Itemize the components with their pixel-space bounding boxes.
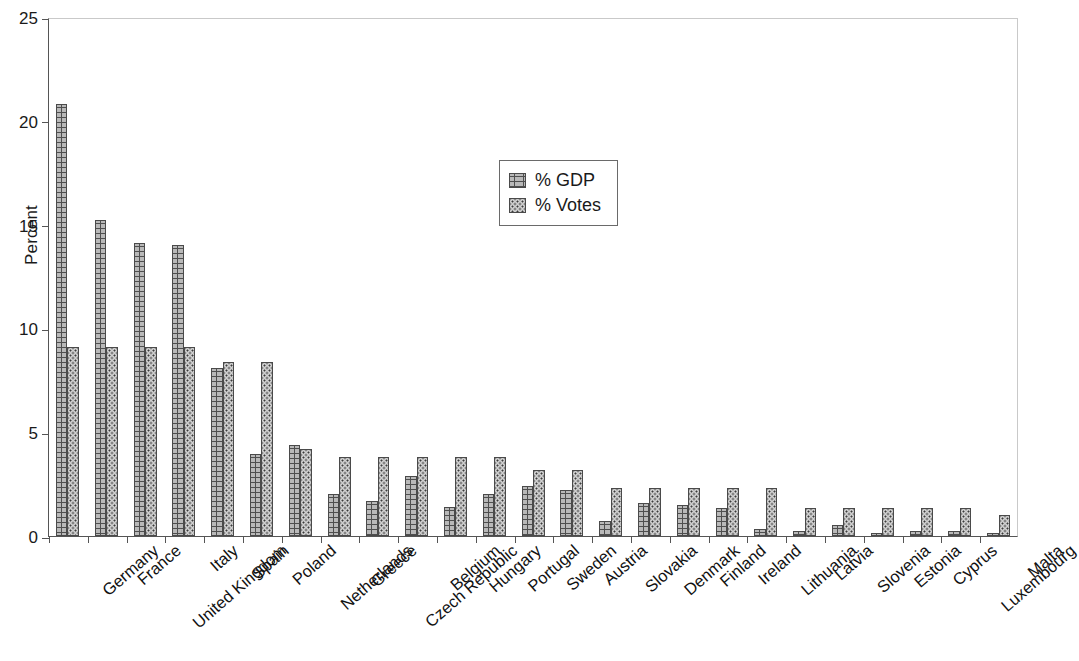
- y-tick-0: 0: [29, 528, 49, 548]
- bar-gdp-estonia: [871, 533, 883, 536]
- bar-votes-finland: [688, 488, 700, 536]
- y-tick-mark: [42, 122, 49, 123]
- bar-votes-latvia: [805, 508, 817, 536]
- y-tick-10: 10: [19, 320, 49, 340]
- y-tick-25: 25: [19, 9, 49, 29]
- bar-votes-france: [106, 347, 118, 536]
- bar-votes-greece: [339, 457, 351, 536]
- y-tick-label: 0: [29, 528, 38, 548]
- bar-votes-lithuania: [766, 488, 778, 536]
- bar-group: [871, 19, 894, 536]
- bar-gdp-slovakia: [599, 521, 611, 536]
- bar-group: [910, 19, 933, 536]
- bar-votes-italy: [184, 347, 196, 536]
- y-tick-20: 20: [19, 113, 49, 133]
- bar-group: [560, 19, 583, 536]
- bar-votes-denmark: [649, 488, 661, 536]
- y-tick-mark: [42, 226, 49, 227]
- bar-gdp-greece: [328, 494, 340, 536]
- x-label-text: Italy: [206, 541, 241, 575]
- y-tick-mark: [42, 19, 49, 20]
- y-tick-label: 10: [19, 320, 38, 340]
- bar-gdp-italy: [172, 245, 184, 536]
- chart-legend: % GDP % Votes: [499, 160, 618, 226]
- bar-votes-slovakia: [611, 488, 623, 536]
- bar-group: [289, 19, 312, 536]
- bar-votes-spain: [223, 362, 235, 536]
- bar-gdp-germany: [56, 104, 68, 536]
- legend-item-votes: % Votes: [509, 193, 601, 218]
- x-label-poland: Poland: [289, 541, 340, 589]
- bar-votes-estonia: [882, 508, 894, 536]
- bar-gdp-malta: [987, 533, 999, 536]
- bar-gdp-denmark: [638, 503, 650, 536]
- bar-group: [522, 19, 545, 536]
- bar-group: [250, 19, 273, 536]
- bar-votes-austria: [572, 470, 584, 536]
- bar-votes-germany: [67, 347, 79, 536]
- bar-group: [948, 19, 971, 536]
- bar-group: [328, 19, 351, 536]
- bar-gdp-poland: [250, 454, 262, 536]
- bar-votes-netherlands: [300, 449, 312, 536]
- bar-votes-portugal: [494, 457, 506, 536]
- bar-votes-sweden: [533, 470, 545, 536]
- bar-group: [832, 19, 855, 536]
- legend-item-gdp: % GDP: [509, 168, 601, 193]
- legend-label-gdp: % GDP: [535, 170, 595, 191]
- bar-votes-cyprus: [921, 508, 933, 536]
- bar-gdp-ireland: [716, 508, 728, 536]
- bar-group: [793, 19, 816, 536]
- bar-votes-czech-republic: [378, 457, 390, 536]
- bar-group: [599, 19, 622, 536]
- y-tick-mark: [42, 434, 49, 435]
- bar-group: [95, 19, 118, 536]
- legend-label-votes: % Votes: [535, 195, 601, 216]
- bar-gdp-france: [95, 220, 107, 536]
- y-tick-5: 5: [29, 424, 49, 444]
- brick-pattern-swatch: [509, 173, 526, 188]
- bar-gdp-luxembourg: [948, 531, 960, 536]
- bar-gdp-latvia: [793, 531, 805, 536]
- bar-group: [172, 19, 195, 536]
- bar-votes-belgium: [417, 457, 429, 536]
- bar-group: [716, 19, 739, 536]
- bar-group: [444, 19, 467, 536]
- plot-area: 0510152025: [48, 18, 1018, 537]
- bar-votes-ireland: [727, 488, 739, 536]
- bar-group: [366, 19, 389, 536]
- bar-gdp-czech-republic: [366, 501, 378, 536]
- bar-group: [638, 19, 661, 536]
- bar-gdp-united-kingdom: [134, 243, 146, 536]
- y-tick-label: 5: [29, 424, 38, 444]
- bar-group: [211, 19, 234, 536]
- y-tick-mark: [42, 538, 49, 539]
- y-tick-label: 20: [19, 113, 38, 133]
- bar-gdp-spain: [211, 368, 223, 536]
- bar-votes-malta: [999, 515, 1011, 536]
- bar-group: [134, 19, 157, 536]
- bar-group: [483, 19, 506, 536]
- x-axis-labels: GermanyFranceUnited KingdomItalySpainPol…: [48, 541, 1018, 661]
- x-label-italy: Italy: [206, 541, 241, 575]
- y-tick-label: 25: [19, 9, 38, 29]
- x-label-text: Poland: [289, 541, 340, 589]
- bar-votes-luxembourg: [960, 508, 972, 536]
- bar-gdp-belgium: [405, 476, 417, 536]
- bar-votes-united-kingdom: [145, 347, 157, 536]
- bar-gdp-cyprus: [910, 531, 922, 536]
- bar-group: [754, 19, 777, 536]
- bar-votes-hungary: [455, 457, 467, 536]
- y-tick-label: 15: [19, 217, 38, 237]
- bar-gdp-slovenia: [832, 525, 844, 536]
- bar-gdp-finland: [677, 505, 689, 536]
- dotted-pattern-swatch: [509, 198, 526, 213]
- bar-gdp-portugal: [483, 494, 495, 536]
- bar-gdp-lithuania: [754, 529, 766, 536]
- bar-group: [56, 19, 79, 536]
- bar-group: [405, 19, 428, 536]
- bar-gdp-hungary: [444, 507, 456, 536]
- bar-gdp-netherlands: [289, 445, 301, 536]
- y-tick-15: 15: [19, 217, 49, 237]
